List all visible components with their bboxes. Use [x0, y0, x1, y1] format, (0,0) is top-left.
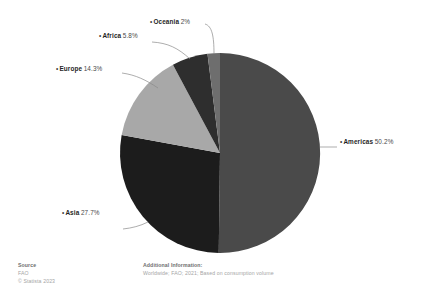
- pie-chart-figure: •Oceania2% •Africa5.8% •Europe14.3% •Asi…: [0, 0, 426, 293]
- additional-information-block: Additional Information: Worldwide; FAO; …: [143, 261, 274, 277]
- source-heading: Source: [18, 261, 55, 269]
- pie-slice-americas[interactable]: [219, 53, 320, 253]
- pie-label-americas-region: Americas: [343, 138, 373, 145]
- pie-label-europe-value: 14.3%: [84, 65, 103, 72]
- source-name: FAO: [18, 269, 55, 277]
- source-block: Source FAO © Statista 2023: [18, 261, 55, 285]
- copyright-line: © Statista 2023: [18, 277, 55, 285]
- pie-label-africa: •Africa5.8%: [99, 32, 138, 39]
- pie-label-asia: •Asia27.7%: [62, 209, 100, 216]
- pie-chart-graphic: [0, 0, 426, 293]
- pie-label-africa-region: Africa: [102, 32, 121, 39]
- pie-label-americas-value: 50.2%: [375, 138, 394, 145]
- pie-label-europe-region: Europe: [59, 65, 82, 72]
- pie-label-europe: •Europe14.3%: [56, 65, 102, 72]
- pie-label-oceania: •Oceania2%: [150, 18, 190, 25]
- leader-line-oceania: [205, 24, 214, 54]
- pie-label-asia-region: Asia: [65, 209, 79, 216]
- additional-information-heading: Additional Information:: [143, 261, 274, 269]
- pie-label-oceania-value: 2%: [181, 18, 191, 25]
- pie-slice-asia[interactable]: [120, 135, 220, 253]
- leader-line-asia: [123, 222, 148, 229]
- leader-line-africa: [152, 42, 190, 59]
- pie-label-asia-value: 27.7%: [81, 209, 100, 216]
- pie-label-africa-value: 5.8%: [123, 32, 138, 39]
- additional-information-detail: Worldwide; FAO; 2021; Based on consumpti…: [143, 269, 274, 277]
- pie-label-americas: •Americas50.2%: [340, 138, 393, 145]
- pie-label-oceania-region: Oceania: [153, 18, 179, 25]
